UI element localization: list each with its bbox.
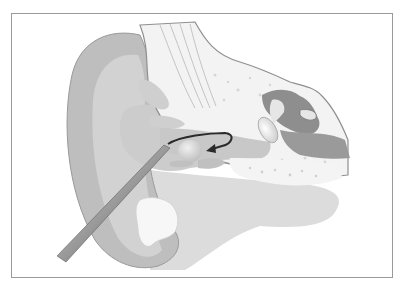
canal-floor-tissue bbox=[198, 158, 225, 168]
ear-anatomy-illustration bbox=[0, 0, 400, 286]
lower-soft-tissue bbox=[150, 170, 339, 270]
foreign-body bbox=[178, 140, 202, 162]
